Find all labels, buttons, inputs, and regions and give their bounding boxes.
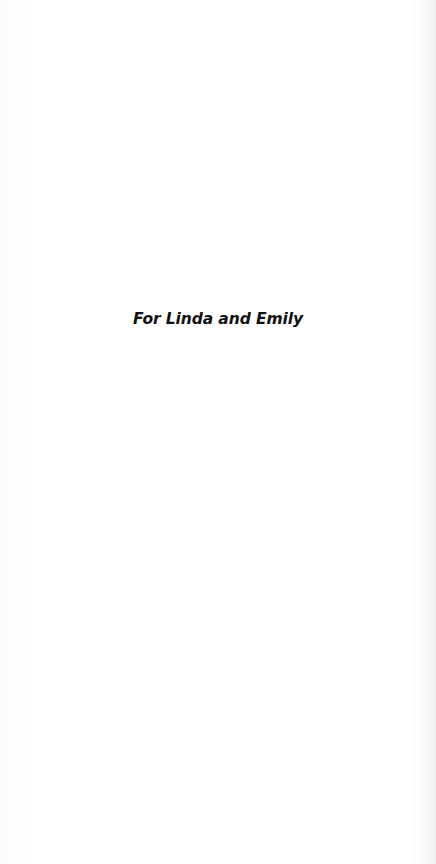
book-page: For Linda and Emily [0, 0, 436, 864]
dedication-text: For Linda and Emily [0, 308, 436, 330]
